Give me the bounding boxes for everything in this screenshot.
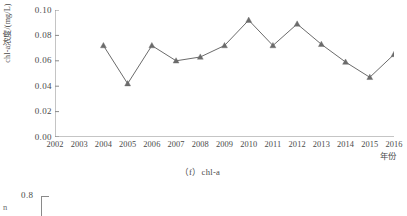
x-tick-label: 2016 bbox=[374, 139, 407, 150]
data-point-marker bbox=[125, 81, 131, 86]
plot-svg bbox=[55, 10, 394, 137]
data-point-marker bbox=[343, 59, 349, 64]
figure-caption: （f）chl-a bbox=[0, 166, 400, 178]
y-tick-label: 0.06 bbox=[16, 56, 52, 65]
next-figure-clipped: n 0.8 bbox=[0, 188, 400, 216]
data-point-marker bbox=[246, 17, 252, 22]
y-tick-label: 0.04 bbox=[16, 82, 52, 91]
plot-area bbox=[55, 10, 394, 137]
data-point-marker bbox=[294, 21, 300, 26]
x-axis-title: 年份 bbox=[380, 151, 396, 162]
next-figure-y-label-fragment: n bbox=[3, 202, 7, 212]
y-axis-title: chl-a浓度/(mg/L) bbox=[3, 0, 13, 81]
data-point-marker bbox=[100, 42, 106, 47]
next-figure-axis-top-tick bbox=[41, 196, 49, 197]
data-point-marker bbox=[391, 51, 394, 56]
data-point-marker bbox=[149, 42, 155, 47]
y-tick-label: 0.08 bbox=[16, 31, 52, 40]
y-tick-label-group: 0.000.020.040.060.080.10 bbox=[16, 0, 52, 147]
x-tick-label-group: 2002200320042005200620072008200920102011… bbox=[0, 139, 400, 153]
y-tick-label: 0.02 bbox=[16, 107, 52, 116]
next-figure-y-tick: 0.8 bbox=[21, 190, 33, 200]
chart-chl-a: chl-a浓度/(mg/L) 0.000.020.040.060.080.10 … bbox=[0, 0, 400, 185]
next-figure-y-axis-line bbox=[41, 196, 42, 216]
y-tick-label: 0.10 bbox=[16, 6, 52, 15]
series-line-chl-a bbox=[103, 20, 394, 84]
